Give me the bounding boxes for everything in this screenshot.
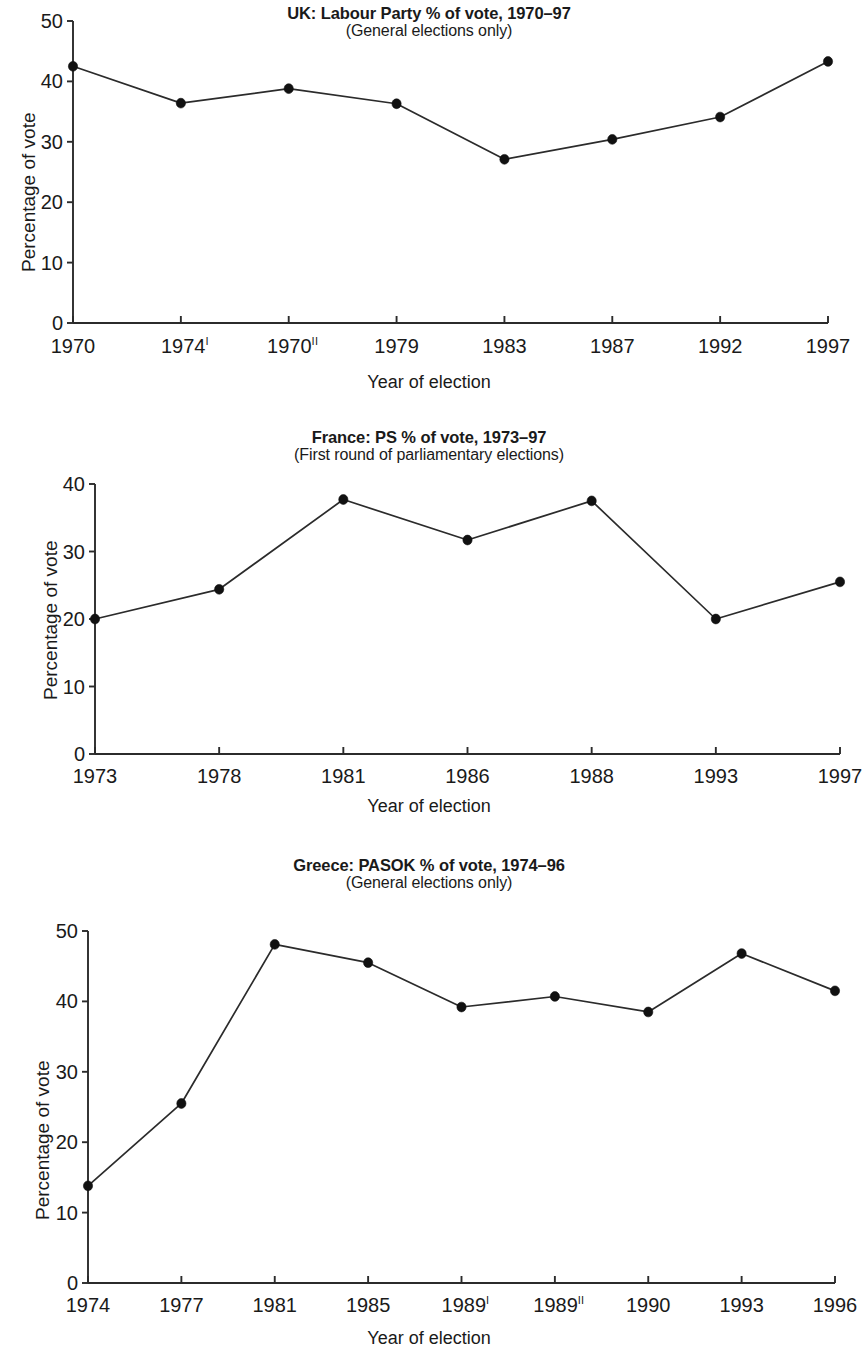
x-tick-label-superscript: I bbox=[486, 1294, 489, 1306]
x-tick-label-year: 1990 bbox=[626, 1294, 671, 1316]
data-point-greece-6 bbox=[644, 1007, 653, 1017]
x-tick-label-year: 1989 bbox=[533, 1294, 578, 1316]
x-tick-label-year: 1973 bbox=[73, 765, 118, 787]
x-tick-label-greece-0: 1974 bbox=[43, 1295, 133, 1315]
x-tick-label-greece-6: 1990 bbox=[603, 1295, 693, 1315]
x-tick-label-year: 1997 bbox=[818, 765, 863, 787]
x-tick-label-year: 1974 bbox=[66, 1294, 111, 1316]
x-tick-label-year: 1996 bbox=[813, 1294, 858, 1316]
y-tick-label-greece-40: 40 bbox=[30, 991, 78, 1011]
x-tick-label-france-1: 1978 bbox=[174, 766, 264, 786]
x-tick-label-greece-4: 1989I bbox=[421, 1295, 511, 1315]
chart-greece-subtitle: (General elections only) bbox=[0, 874, 858, 892]
data-point-greece-0 bbox=[83, 1181, 92, 1191]
x-tick-label-year: 1993 bbox=[694, 765, 739, 787]
x-tick-label-france-6: 1997 bbox=[795, 766, 866, 786]
x-tick-label-year: 1981 bbox=[321, 765, 366, 787]
data-point-greece-4 bbox=[457, 1002, 466, 1012]
data-point-greece-1 bbox=[177, 1099, 186, 1109]
data-point-france-1 bbox=[215, 584, 224, 594]
x-tick-label-year: 1989 bbox=[442, 1294, 487, 1316]
data-point-greece-5 bbox=[550, 992, 559, 1002]
x-tick-label-year: 1993 bbox=[719, 1294, 764, 1316]
y-tick-label-france-0: 0 bbox=[37, 744, 85, 764]
x-tick-label-france-4: 1988 bbox=[547, 766, 637, 786]
y-tick-label-greece-50: 50 bbox=[30, 921, 78, 941]
x-tick-label-greece-1: 1977 bbox=[136, 1295, 226, 1315]
x-tick-label-year: 1985 bbox=[346, 1294, 391, 1316]
x-tick-label-year: 1981 bbox=[253, 1294, 298, 1316]
x-tick-label-year: 1986 bbox=[445, 765, 490, 787]
chart-greece-titles: Greece: PASOK % of vote, 1974–96 (Genera… bbox=[0, 856, 858, 892]
chart-greece-x-axis-title: Year of election bbox=[0, 1328, 858, 1349]
x-tick-label-france-3: 1986 bbox=[423, 766, 513, 786]
data-line-greece bbox=[88, 944, 835, 1185]
chart-france-y-axis-title: Percentage of vote bbox=[40, 541, 62, 701]
x-tick-label-france-2: 1981 bbox=[298, 766, 388, 786]
x-tick-label-superscript: II bbox=[578, 1294, 585, 1306]
data-point-greece-2 bbox=[270, 939, 279, 949]
x-tick-label-greece-3: 1985 bbox=[323, 1295, 413, 1315]
data-point-france-0 bbox=[90, 614, 99, 624]
x-tick-label-year: 1988 bbox=[569, 765, 614, 787]
chart-greece-title: Greece: PASOK % of vote, 1974–96 bbox=[0, 856, 858, 874]
x-tick-label-greece-5: 1989II bbox=[514, 1295, 604, 1315]
data-point-greece-8 bbox=[830, 986, 839, 996]
y-tick-label-greece-0: 0 bbox=[30, 1273, 78, 1293]
x-tick-label-greece-8: 1996 bbox=[790, 1295, 866, 1315]
x-tick-label-france-5: 1993 bbox=[671, 766, 761, 786]
data-point-france-5 bbox=[711, 614, 720, 624]
data-point-france-6 bbox=[835, 577, 844, 587]
x-tick-label-year: 1977 bbox=[159, 1294, 204, 1316]
x-tick-label-year: 1978 bbox=[197, 765, 242, 787]
data-point-greece-7 bbox=[737, 949, 746, 959]
chart-greece-pasok: Greece: PASOK % of vote, 1974–96 (Genera… bbox=[0, 810, 858, 1353]
x-tick-label-greece-2: 1981 bbox=[230, 1295, 320, 1315]
chart-greece-plot bbox=[0, 0, 858, 543]
x-tick-label-greece-7: 1993 bbox=[697, 1295, 787, 1315]
data-point-greece-3 bbox=[364, 958, 373, 968]
chart-greece-y-axis-title: Percentage of vote bbox=[32, 1061, 54, 1221]
x-tick-label-france-0: 1973 bbox=[50, 766, 140, 786]
